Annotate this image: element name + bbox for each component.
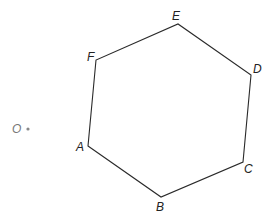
label-f: F <box>87 51 94 63</box>
point-o-dot <box>26 127 29 130</box>
label-o: O <box>12 123 21 135</box>
hexagon-abcdef <box>88 24 251 197</box>
label-c: C <box>244 163 253 175</box>
label-a: A <box>76 141 84 153</box>
hexagon-diagram <box>0 0 277 221</box>
label-d: D <box>253 63 262 75</box>
label-e: E <box>172 10 180 22</box>
label-b: B <box>156 201 164 213</box>
